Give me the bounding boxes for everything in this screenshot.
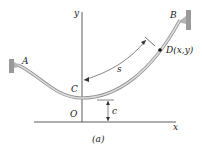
label-a: A: [21, 56, 29, 66]
label-origin: O: [70, 109, 78, 119]
label-c-distance: c: [112, 106, 117, 116]
label-c-point: C: [71, 84, 78, 94]
cable-diagram: y x A B C O D(x,y) s c (a): [0, 0, 202, 152]
label-d: D(x,y): [165, 45, 194, 55]
label-b: B: [169, 10, 177, 20]
x-axis-label: x: [173, 122, 178, 132]
point-d: [158, 48, 162, 52]
cable: [18, 20, 180, 98]
y-axis-label: y: [73, 8, 80, 18]
label-s: s: [117, 64, 122, 74]
figure-caption: (a): [92, 134, 105, 144]
